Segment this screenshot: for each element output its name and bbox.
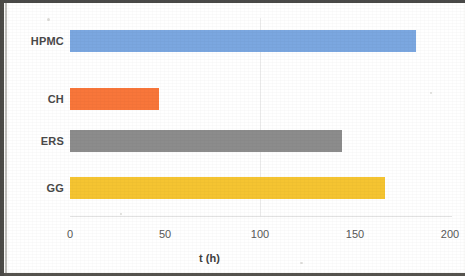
x-tick-label-200: 200	[430, 228, 465, 240]
category-label-ers: ERS	[8, 118, 64, 164]
bar-ch[interactable]	[70, 88, 159, 110]
bar-row-ch: CH	[8, 76, 463, 122]
bar-row-hpmc: HPMC	[8, 18, 463, 64]
category-label-hpmc: HPMC	[8, 18, 64, 64]
bar-chart: HPMC CH ERS GG 0 50 100	[8, 4, 463, 272]
x-tick-label-150: 150	[335, 228, 375, 240]
bar-row-gg: GG	[8, 165, 463, 211]
x-axis-line	[70, 216, 452, 217]
x-tick-label-0: 0	[50, 228, 90, 240]
bar-row-ers: ERS	[8, 118, 463, 164]
bar-fill-ers	[70, 130, 342, 152]
scan-speck	[47, 18, 50, 21]
x-tick-label-100: 100	[240, 228, 280, 240]
bar-fill-ch	[70, 88, 159, 110]
bar-fill-gg	[70, 177, 385, 199]
x-tick-label-50: 50	[145, 228, 185, 240]
x-axis-title-text: t (h)	[199, 252, 220, 264]
scanned-chart-page: HPMC CH ERS GG 0 50 100	[0, 0, 465, 276]
bar-fill-hpmc	[70, 30, 416, 52]
x-axis-title: t (h)	[8, 252, 463, 264]
page-border-top	[0, 0, 465, 3]
bar-hpmc[interactable]	[70, 30, 416, 52]
category-label-ch: CH	[8, 76, 64, 122]
category-label-gg: GG	[8, 165, 64, 211]
page-border-left-inner	[5, 3, 7, 273]
scan-speck	[120, 213, 122, 215]
bar-gg[interactable]	[70, 177, 385, 199]
scan-speck	[300, 262, 303, 264]
scan-speck	[430, 92, 432, 94]
bar-ers[interactable]	[70, 130, 342, 152]
page-border-left	[0, 0, 4, 276]
